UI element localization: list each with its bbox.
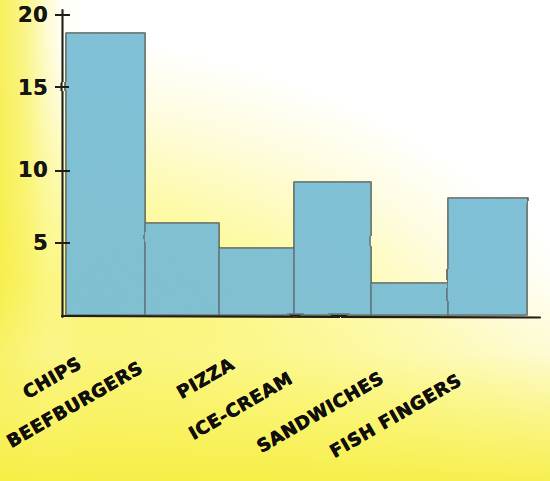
- bar-sandwiches: [371, 283, 448, 315]
- y-tick-label-10: 10: [18, 158, 48, 182]
- bar-chart-image: 20 15 10 5 CHIPS BEEFBURGERS PIZZA ICE-C…: [0, 0, 550, 481]
- bars-group: [66, 33, 527, 315]
- y-tick-label-20: 20: [18, 3, 48, 27]
- plot-area: 20 15 10 5 CHIPS BEEFBURGERS PIZZA ICE-C…: [0, 0, 550, 481]
- bar-ice-cream: [294, 182, 371, 315]
- bar-beefburgers: [145, 223, 219, 315]
- x-axis-line: [62, 316, 540, 318]
- y-tick-label-5: 5: [33, 231, 48, 255]
- bar-chips: [66, 33, 145, 315]
- bar-fish-fingers: [448, 198, 527, 315]
- y-tick-label-15: 15: [18, 76, 48, 100]
- bar-pizza: [219, 248, 294, 315]
